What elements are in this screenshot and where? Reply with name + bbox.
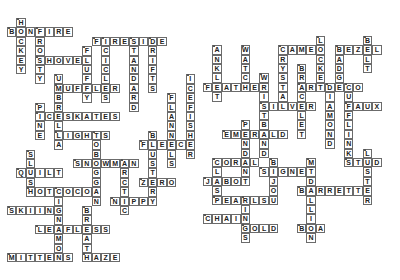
- crossword-cell[interactable]: F: [203, 83, 212, 92]
- crossword-cell[interactable]: S: [259, 102, 268, 111]
- crossword-cell[interactable]: T: [297, 130, 306, 139]
- crossword-cell[interactable]: I: [231, 214, 240, 223]
- crossword-cell[interactable]: C: [297, 92, 306, 101]
- crossword-cell[interactable]: L: [306, 196, 315, 205]
- crossword-cell[interactable]: T: [353, 186, 362, 195]
- crossword-cell[interactable]: N: [212, 55, 221, 64]
- crossword-cell[interactable]: D: [372, 158, 381, 167]
- crossword-cell[interactable]: O: [316, 45, 325, 54]
- crossword-cell[interactable]: N: [241, 139, 250, 148]
- crossword-cell[interactable]: A: [222, 83, 231, 92]
- crossword-cell[interactable]: R: [363, 196, 372, 205]
- crossword-cell[interactable]: O: [325, 120, 334, 129]
- crossword-cell[interactable]: L: [297, 111, 306, 120]
- crossword-cell[interactable]: R: [316, 186, 325, 195]
- crossword-cell[interactable]: K: [316, 64, 325, 73]
- crossword-cell[interactable]: U: [269, 196, 278, 205]
- crossword-cell[interactable]: S: [363, 167, 372, 176]
- crossword-cell[interactable]: T: [316, 83, 325, 92]
- crossword-cell[interactable]: G: [278, 167, 287, 176]
- crossword-cell[interactable]: C: [278, 45, 287, 54]
- crossword-cell[interactable]: I: [259, 92, 268, 101]
- crossword-cell[interactable]: T: [241, 64, 250, 73]
- crossword-cell[interactable]: B: [222, 177, 231, 186]
- crossword-cell[interactable]: B: [297, 64, 306, 73]
- crossword-cell[interactable]: T: [231, 83, 240, 92]
- crossword-cell[interactable]: E: [222, 196, 231, 205]
- crossword-cell[interactable]: F: [344, 111, 353, 120]
- crossword-cell[interactable]: L: [250, 196, 259, 205]
- crossword-cell[interactable]: B: [297, 186, 306, 195]
- crossword-cell[interactable]: F: [344, 102, 353, 111]
- crossword-cell[interactable]: O: [250, 224, 259, 233]
- crossword-cell[interactable]: L: [212, 167, 221, 176]
- crossword-cell[interactable]: D: [325, 83, 334, 92]
- crossword-cell[interactable]: X: [372, 102, 381, 111]
- crossword-cell[interactable]: S: [212, 186, 221, 195]
- crossword-cell[interactable]: R: [231, 158, 240, 167]
- crossword-cell[interactable]: O: [231, 177, 240, 186]
- crossword-cell[interactable]: E: [344, 45, 353, 54]
- crossword-cell[interactable]: O: [222, 158, 231, 167]
- crossword-cell[interactable]: T: [278, 83, 287, 92]
- crossword-cell[interactable]: E: [241, 130, 250, 139]
- crossword-cell[interactable]: R: [297, 73, 306, 82]
- crossword-cell[interactable]: N: [259, 139, 268, 148]
- crossword-cell[interactable]: A: [278, 92, 287, 101]
- crossword-cell[interactable]: L: [306, 205, 315, 214]
- crossword-cell[interactable]: A: [212, 177, 221, 186]
- crossword-cell[interactable]: G: [335, 73, 344, 82]
- crossword-cell[interactable]: P: [212, 196, 221, 205]
- crossword-cell[interactable]: D: [269, 224, 278, 233]
- crossword-cell[interactable]: D: [306, 177, 315, 186]
- crossword-cell[interactable]: N: [241, 167, 250, 176]
- crossword-cell[interactable]: U: [363, 158, 372, 167]
- crossword-cell[interactable]: N: [241, 214, 250, 223]
- crossword-cell[interactable]: L: [250, 158, 259, 167]
- crossword-cell[interactable]: T: [241, 177, 250, 186]
- crossword-cell[interactable]: T: [363, 64, 372, 73]
- crossword-cell[interactable]: D: [259, 149, 268, 158]
- crossword-cell[interactable]: A: [241, 55, 250, 64]
- crossword-cell[interactable]: V: [288, 102, 297, 111]
- crossword-cell[interactable]: A: [231, 196, 240, 205]
- crossword-cell[interactable]: W: [259, 73, 268, 82]
- crossword-cell[interactable]: A: [259, 130, 268, 139]
- crossword-cell[interactable]: A: [222, 214, 231, 223]
- crossword-cell[interactable]: A: [325, 102, 334, 111]
- crossword-cell[interactable]: N: [306, 233, 315, 242]
- crossword-cell[interactable]: D: [241, 149, 250, 158]
- crossword-cell[interactable]: A: [306, 186, 315, 195]
- crossword-cell[interactable]: H: [212, 214, 221, 223]
- crossword-cell[interactable]: R: [306, 83, 315, 92]
- crossword-cell[interactable]: A: [288, 45, 297, 54]
- crossword-cell[interactable]: E: [297, 102, 306, 111]
- crossword-cell[interactable]: L: [212, 73, 221, 82]
- crossword-cell[interactable]: E: [306, 45, 315, 54]
- crossword-cell[interactable]: I: [325, 92, 334, 101]
- crossword-cell[interactable]: R: [278, 55, 287, 64]
- crossword-cell[interactable]: D: [325, 139, 334, 148]
- crossword-cell[interactable]: T: [344, 186, 353, 195]
- crossword-cell[interactable]: C: [241, 73, 250, 82]
- crossword-cell[interactable]: K: [212, 64, 221, 73]
- crossword-cell[interactable]: N: [344, 139, 353, 148]
- crossword-cell[interactable]: L: [278, 102, 287, 111]
- crossword-cell[interactable]: L: [363, 55, 372, 64]
- crossword-cell[interactable]: U: [344, 92, 353, 101]
- crossword-cell[interactable]: I: [241, 205, 250, 214]
- crossword-cell[interactable]: L: [372, 45, 381, 54]
- crossword-cell[interactable]: C: [212, 158, 221, 167]
- crossword-cell[interactable]: B: [297, 224, 306, 233]
- crossword-cell[interactable]: R: [306, 102, 315, 111]
- crossword-cell[interactable]: L: [269, 130, 278, 139]
- crossword-cell[interactable]: T: [363, 177, 372, 186]
- crossword-cell[interactable]: K: [344, 149, 353, 158]
- crossword-cell[interactable]: E: [297, 120, 306, 129]
- crossword-cell[interactable]: H: [241, 83, 250, 92]
- crossword-cell[interactable]: T: [259, 111, 268, 120]
- crossword-cell[interactable]: O: [269, 186, 278, 195]
- crossword-cell[interactable]: E: [363, 45, 372, 54]
- crossword-cell[interactable]: E: [335, 186, 344, 195]
- crossword-cell[interactable]: T: [306, 167, 315, 176]
